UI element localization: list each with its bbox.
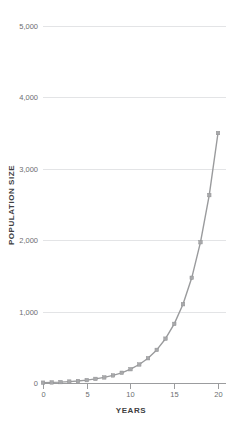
x-tick-label-0: 0 <box>41 390 45 399</box>
y-tick-label-5000: 5,000 <box>19 22 38 31</box>
data-point <box>120 371 124 375</box>
x-tick-label-5: 5 <box>85 390 89 399</box>
data-point <box>181 302 185 306</box>
y-axis-title: POPULATION SIZE <box>7 165 16 245</box>
population-growth-chart: 5,000 4,000 3,000 2,000 1,000 0 0 5 10 1… <box>0 0 244 442</box>
y-tick-label-1000: 1,000 <box>19 308 38 317</box>
population-line <box>43 133 218 383</box>
data-point <box>41 381 45 385</box>
data-point <box>155 348 159 352</box>
x-tick-label-20: 20 <box>214 390 222 399</box>
data-point <box>164 337 168 341</box>
data-point <box>50 381 54 385</box>
chart-svg: 5,000 4,000 3,000 2,000 1,000 0 0 5 10 1… <box>0 0 244 442</box>
data-point <box>111 374 115 378</box>
data-point <box>190 276 194 280</box>
data-point <box>76 379 80 383</box>
data-point <box>146 356 150 360</box>
y-tick-labels: 5,000 4,000 3,000 2,000 1,000 0 <box>19 22 38 388</box>
x-tick-label-10: 10 <box>126 390 134 399</box>
data-point <box>102 376 106 380</box>
data-point <box>85 378 89 382</box>
data-point <box>137 363 141 367</box>
data-point <box>207 193 211 197</box>
y-tick-label-0: 0 <box>34 379 38 388</box>
data-point <box>94 377 98 381</box>
data-point <box>59 380 63 384</box>
data-point <box>216 131 220 135</box>
gridlines <box>43 27 226 313</box>
x-axis <box>43 384 226 389</box>
data-point <box>199 240 203 244</box>
x-tick-label-15: 15 <box>170 390 178 399</box>
x-tick-labels: 0 5 10 15 20 <box>41 390 222 399</box>
data-point <box>172 322 176 326</box>
y-tick-label-4000: 4,000 <box>19 93 38 102</box>
data-point <box>67 380 71 384</box>
x-axis-title: YEARS <box>116 406 146 415</box>
y-tick-label-2000: 2,000 <box>19 236 38 245</box>
data-point <box>129 367 133 371</box>
y-tick-label-3000: 3,000 <box>19 165 38 174</box>
